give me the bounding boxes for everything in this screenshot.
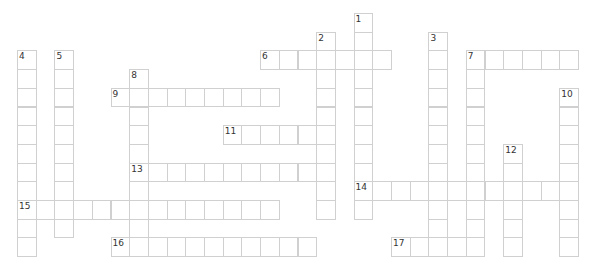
crossword-cell[interactable]	[447, 237, 467, 257]
crossword-cell[interactable]	[522, 50, 542, 70]
crossword-cell[interactable]	[54, 163, 74, 183]
crossword-cell[interactable]	[428, 69, 448, 89]
crossword-cell[interactable]	[185, 163, 205, 183]
crossword-cell[interactable]	[428, 50, 448, 70]
crossword-cell[interactable]	[466, 200, 486, 220]
crossword-cell[interactable]	[559, 181, 579, 201]
crossword-cell[interactable]	[54, 107, 74, 127]
crossword-cell[interactable]	[503, 219, 523, 239]
crossword-cell[interactable]: 6	[260, 50, 280, 70]
crossword-cell[interactable]	[354, 107, 374, 127]
crossword-cell[interactable]	[428, 237, 448, 257]
crossword-cell[interactable]	[241, 200, 261, 220]
crossword-cell[interactable]	[428, 181, 448, 201]
crossword-cell[interactable]	[204, 237, 224, 257]
crossword-cell[interactable]	[316, 200, 336, 220]
crossword-cell[interactable]	[17, 163, 37, 183]
crossword-cell[interactable]	[316, 125, 336, 145]
crossword-cell[interactable]	[316, 163, 336, 183]
crossword-cell[interactable]	[466, 181, 486, 201]
crossword-cell[interactable]	[223, 200, 243, 220]
crossword-cell[interactable]: 11	[223, 125, 243, 145]
crossword-cell[interactable]: 3	[428, 32, 448, 52]
crossword-cell[interactable]	[17, 69, 37, 89]
crossword-cell[interactable]	[167, 163, 187, 183]
crossword-cell[interactable]	[428, 144, 448, 164]
crossword-cell[interactable]	[17, 125, 37, 145]
crossword-cell[interactable]	[223, 237, 243, 257]
crossword-cell[interactable]	[241, 88, 261, 108]
crossword-cell[interactable]	[541, 50, 561, 70]
crossword-cell[interactable]	[354, 200, 374, 220]
crossword-cell[interactable]	[559, 107, 579, 127]
crossword-cell[interactable]	[372, 50, 392, 70]
crossword-cell[interactable]	[167, 88, 187, 108]
crossword-cell[interactable]	[354, 32, 374, 52]
crossword-cell[interactable]	[428, 200, 448, 220]
crossword-cell[interactable]	[129, 200, 149, 220]
crossword-cell[interactable]	[148, 200, 168, 220]
crossword-cell[interactable]	[316, 50, 336, 70]
crossword-cell[interactable]	[354, 163, 374, 183]
crossword-cell[interactable]: 9	[111, 88, 131, 108]
crossword-cell[interactable]	[354, 125, 374, 145]
crossword-cell[interactable]: 16	[111, 237, 131, 257]
crossword-cell[interactable]	[354, 144, 374, 164]
crossword-cell[interactable]: 17	[391, 237, 411, 257]
crossword-cell[interactable]: 12	[503, 144, 523, 164]
crossword-cell[interactable]	[466, 125, 486, 145]
crossword-cell[interactable]	[36, 200, 56, 220]
crossword-cell[interactable]	[503, 237, 523, 257]
crossword-cell[interactable]	[260, 200, 280, 220]
crossword-cell[interactable]	[17, 219, 37, 239]
crossword-cell[interactable]	[298, 50, 318, 70]
crossword-cell[interactable]	[148, 163, 168, 183]
crossword-cell[interactable]	[129, 88, 149, 108]
crossword-cell[interactable]: 15	[17, 200, 37, 220]
crossword-cell[interactable]	[129, 144, 149, 164]
crossword-cell[interactable]	[298, 163, 318, 183]
crossword-cell[interactable]	[17, 88, 37, 108]
crossword-cell[interactable]: 4	[17, 50, 37, 70]
crossword-cell[interactable]	[354, 50, 374, 70]
crossword-cell[interactable]	[17, 107, 37, 127]
crossword-cell[interactable]	[17, 237, 37, 257]
crossword-cell[interactable]	[279, 163, 299, 183]
crossword-cell[interactable]	[241, 237, 261, 257]
crossword-cell[interactable]	[559, 237, 579, 257]
crossword-cell[interactable]	[503, 181, 523, 201]
crossword-cell[interactable]	[428, 107, 448, 127]
crossword-cell[interactable]	[17, 144, 37, 164]
crossword-cell[interactable]	[559, 125, 579, 145]
crossword-cell[interactable]	[335, 50, 355, 70]
crossword-cell[interactable]	[129, 181, 149, 201]
crossword-cell[interactable]	[148, 88, 168, 108]
crossword-cell[interactable]: 1	[354, 13, 374, 33]
crossword-cell[interactable]	[466, 237, 486, 257]
crossword-cell[interactable]	[428, 125, 448, 145]
crossword-cell[interactable]	[559, 200, 579, 220]
crossword-cell[interactable]	[559, 144, 579, 164]
crossword-cell[interactable]	[54, 125, 74, 145]
crossword-cell[interactable]: 2	[316, 32, 336, 52]
crossword-cell[interactable]	[279, 237, 299, 257]
crossword-cell[interactable]	[279, 50, 299, 70]
crossword-cell[interactable]	[354, 69, 374, 89]
crossword-cell[interactable]	[298, 125, 318, 145]
crossword-cell[interactable]	[129, 219, 149, 239]
crossword-cell[interactable]	[316, 69, 336, 89]
crossword-cell[interactable]	[129, 125, 149, 145]
crossword-cell[interactable]	[204, 163, 224, 183]
crossword-cell[interactable]	[260, 88, 280, 108]
crossword-cell[interactable]	[241, 125, 261, 145]
crossword-cell[interactable]	[54, 144, 74, 164]
crossword-cell[interactable]	[92, 200, 112, 220]
crossword-cell[interactable]	[260, 237, 280, 257]
crossword-cell[interactable]	[466, 88, 486, 108]
crossword-cell[interactable]: 13	[129, 163, 149, 183]
crossword-cell[interactable]	[447, 181, 467, 201]
crossword-cell[interactable]	[204, 200, 224, 220]
crossword-cell[interactable]	[391, 181, 411, 201]
crossword-cell[interactable]	[279, 125, 299, 145]
crossword-cell[interactable]	[466, 107, 486, 127]
